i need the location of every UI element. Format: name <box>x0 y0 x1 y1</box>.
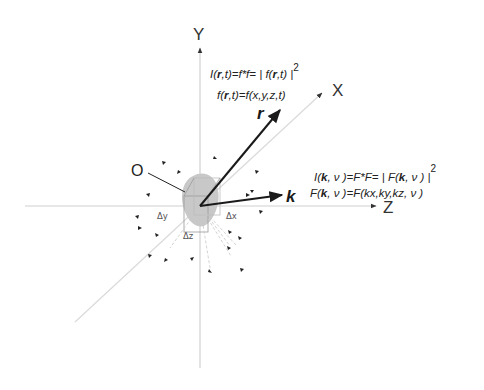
k-vector-label: k <box>286 187 297 206</box>
real-space-formulas: I(r,t)=f*f= | f(r,t) |2 f(r,t)=f(x,y,z,t… <box>210 62 299 101</box>
delta-x-label: Δx <box>226 211 237 221</box>
x-axis-label: X <box>332 81 343 100</box>
intensity-real-formula: I(r,t)=f*f= | f(r,t) |2 <box>210 62 299 80</box>
origin-pointer-line <box>148 173 185 192</box>
origin-label: O <box>131 162 143 179</box>
intensity-reciprocal-formula: I(k, ν )=F*F= | F(k, ν ) |2 <box>314 163 437 183</box>
amplitude-reciprocal-formula: F(k, ν )=F(kx,ky,kz, ν ) <box>310 187 423 199</box>
delta-y-label: Δy <box>157 211 168 221</box>
reciprocal-space-formulas: I(k, ν )=F*F= | F(k, ν ) |2 F(k, ν )=F(k… <box>310 163 437 199</box>
delta-z-label: Δz <box>183 231 194 241</box>
amplitude-real-formula: f(r,t)=f(x,y,z,t) <box>217 89 286 101</box>
coordinate-diagram: Y X Z Δy Δx Δz <box>0 0 484 390</box>
z-axis-label: Z <box>383 198 393 217</box>
r-vector-label: r <box>257 104 265 123</box>
r-vector <box>200 110 280 206</box>
origin-blob <box>182 174 219 227</box>
y-axis-label: Y <box>193 25 204 44</box>
